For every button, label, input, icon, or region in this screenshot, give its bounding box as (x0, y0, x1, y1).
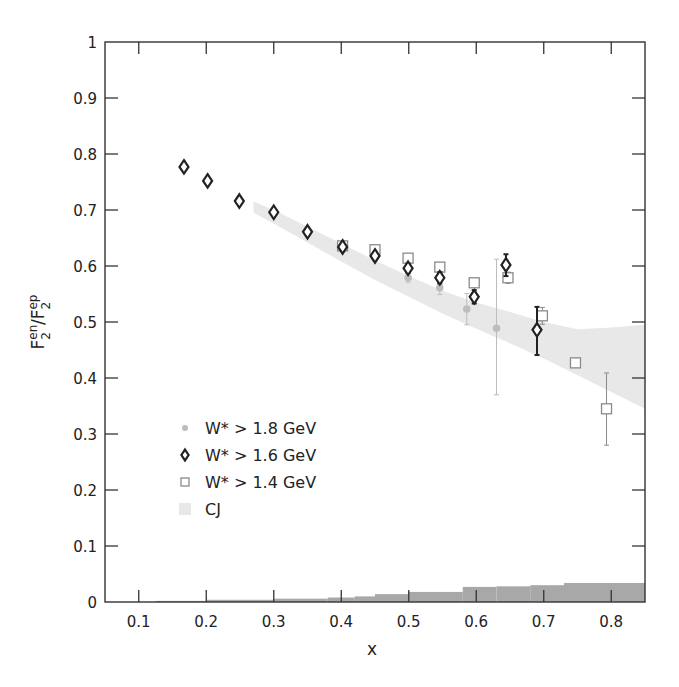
square-marker (537, 311, 547, 321)
svg-text:Fen2/Fep2: Fen2/Fep2 (26, 295, 53, 350)
diamond-marker (181, 450, 188, 461)
systematic-step (530, 585, 564, 602)
axes-box (105, 42, 645, 602)
x-tick-label: 0.6 (464, 613, 488, 631)
x-tick-label: 0.1 (127, 613, 151, 631)
systematic-step (409, 592, 463, 602)
y-tick-label: 0.3 (73, 426, 97, 444)
systematic-step (497, 586, 531, 602)
legend: W* > 1.8 GeVW* > 1.6 GeVW* > 1.4 GeVCJ (179, 419, 316, 519)
systematic-error-band (156, 583, 645, 602)
legend-label: CJ (205, 500, 221, 519)
y-tick-label: 1 (87, 34, 97, 52)
data-series (179, 160, 611, 445)
systematic-step (463, 587, 497, 602)
diamond-marker (501, 258, 510, 272)
legend-label: W* > 1.4 GeV (205, 473, 316, 492)
y-tick-label: 0.1 (73, 538, 97, 556)
systematic-step (355, 596, 375, 602)
circle-marker (182, 425, 188, 431)
systematic-step (375, 594, 409, 602)
chart: 0.10.20.30.40.50.60.70.8 00.10.20.30.40.… (0, 0, 679, 687)
x-tick-label: 0.5 (397, 613, 421, 631)
plot-frame (105, 42, 645, 602)
square-marker (503, 273, 513, 283)
legend-label: W* > 1.8 GeV (205, 419, 316, 438)
legend-item: W* > 1.4 GeV (181, 473, 316, 492)
x-tick-label: 0.4 (329, 613, 353, 631)
legend-item: CJ (179, 500, 221, 519)
diamond-marker (179, 160, 188, 174)
diamond-marker (235, 194, 244, 208)
y-tick-label: 0.6 (73, 258, 97, 276)
y-tick-label: 0.4 (73, 370, 97, 388)
circle-marker (493, 324, 501, 332)
x-tick-label: 0.3 (262, 613, 286, 631)
diamond-marker (435, 271, 444, 285)
y-tick-label: 0.7 (73, 202, 97, 220)
systematic-step (564, 583, 645, 602)
x-tick-label: 0.2 (194, 613, 218, 631)
x-tick-label: 0.8 (599, 613, 623, 631)
y-tick-label: 0.9 (73, 90, 97, 108)
legend-item: W* > 1.6 GeV (181, 446, 316, 465)
square-marker (469, 278, 479, 288)
square-marker (181, 478, 189, 486)
y-axis-ticks: 00.10.20.30.40.50.60.70.80.91 (73, 34, 645, 612)
diamond-marker (203, 174, 212, 188)
series-circle (180, 163, 500, 395)
square-marker (602, 404, 612, 414)
circle-marker (463, 305, 471, 313)
legend-item: W* > 1.8 GeV (182, 419, 316, 438)
x-axis-label: x (367, 639, 377, 659)
y-axis-label: Fen2/Fep2 (26, 295, 53, 350)
y-tick-label: 0 (87, 594, 97, 612)
y-tick-label: 0.2 (73, 482, 97, 500)
square-marker (570, 358, 580, 368)
x-tick-label: 0.7 (532, 613, 556, 631)
y-tick-label: 0.5 (73, 314, 97, 332)
band-swatch (179, 503, 191, 515)
legend-label: W* > 1.6 GeV (205, 446, 316, 465)
y-tick-label: 0.8 (73, 146, 97, 164)
